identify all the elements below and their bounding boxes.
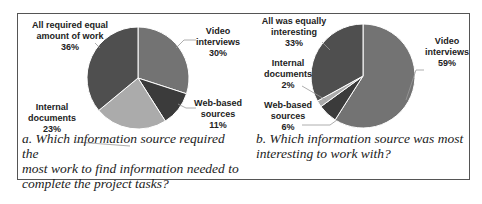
label-b-video: Videointerviews59% xyxy=(422,36,472,69)
caption-a: a. Which information source required the… xyxy=(22,131,242,191)
label-b-internal: Internaldocuments2% xyxy=(258,58,318,91)
label-a-equal: All required equalamount of work36% xyxy=(20,20,120,53)
label-a-video: Videointerviews30% xyxy=(188,26,248,59)
label-b-web: Web-basedsources6% xyxy=(256,100,320,133)
label-b-equal: All was equallyinteresting33% xyxy=(254,16,334,49)
label-a-web: Web-basedsources11% xyxy=(188,98,248,131)
caption-b: b. Which information source was mostinte… xyxy=(256,131,471,161)
